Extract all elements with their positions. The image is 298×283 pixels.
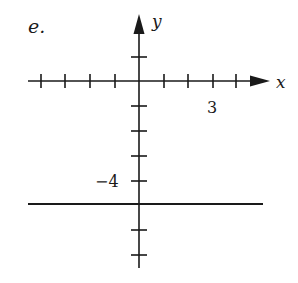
x-axis-label: x bbox=[276, 72, 286, 92]
x-axis-arrow-icon bbox=[250, 76, 270, 87]
y-axis-arrow-icon bbox=[134, 14, 145, 34]
x-tick-label-3: 3 bbox=[207, 98, 217, 117]
y-tick-label-neg4: −4 bbox=[95, 172, 119, 191]
part-label: e. bbox=[28, 15, 45, 37]
coordinate-plane: e. y x 3 −4 bbox=[0, 0, 298, 283]
y-axis-label: y bbox=[151, 11, 162, 31]
